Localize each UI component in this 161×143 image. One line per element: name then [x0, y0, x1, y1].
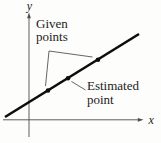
x-axis-label: x	[148, 113, 155, 127]
estimated-point-marker	[66, 76, 71, 81]
estimated-point-label-line2: point	[87, 92, 114, 107]
trend-line	[5, 34, 139, 117]
estimated-point-label-line1: Estimated	[87, 78, 139, 93]
y-axis-label: y	[26, 0, 33, 13]
leader-given-right	[49, 51, 93, 57]
given-point-marker	[46, 88, 51, 93]
interpolation-diagram: Given points Estimated point y x	[0, 0, 161, 143]
given-point-marker	[96, 57, 101, 62]
x-axis-arrowhead-icon	[138, 118, 144, 122]
given-points-label-line2: points	[36, 29, 68, 44]
leader-given-left	[46, 51, 50, 86]
y-axis-arrowhead-icon	[27, 13, 31, 19]
figure-canvas: Given points Estimated point y x	[0, 0, 161, 143]
leader-estimated	[72, 82, 86, 91]
